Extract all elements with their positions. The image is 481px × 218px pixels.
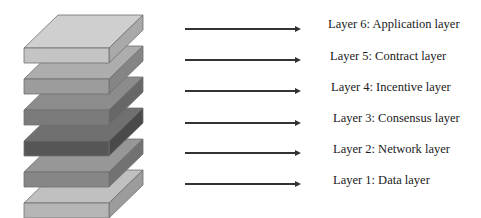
- arrow-layer-5: [185, 57, 301, 63]
- layer-2-label: Layer 2: Network layer: [333, 142, 450, 157]
- arrowhead-icon: [295, 120, 301, 126]
- arrowhead-icon: [295, 181, 301, 187]
- slab-front-face: [24, 48, 109, 63]
- layer-3-label: Layer 3: Consensus layer: [333, 111, 460, 126]
- arrow-layer-2: [185, 150, 301, 156]
- arrowhead-icon: [295, 57, 301, 63]
- layer-5-label: Layer 5: Contract layer: [330, 49, 446, 64]
- slab-front-face: [24, 141, 109, 156]
- arrow-layer-6: [185, 26, 301, 32]
- arrow-layer-1: [185, 181, 301, 187]
- layer-1-label: Layer 1: Data layer: [333, 173, 430, 188]
- slab-front-face: [24, 203, 109, 218]
- arrow-layer-3: [185, 120, 301, 126]
- layer-4-label: Layer 4: Incentive layer: [331, 80, 451, 95]
- slab-front-face: [24, 110, 109, 125]
- slab-front-face: [24, 79, 109, 94]
- arrowhead-icon: [295, 150, 301, 156]
- layer-6-label: Layer 6: Application layer: [328, 17, 460, 32]
- slab-front-face: [24, 172, 109, 187]
- arrow-layer-4: [185, 88, 301, 94]
- arrowhead-icon: [295, 26, 301, 32]
- arrowhead-icon: [295, 88, 301, 94]
